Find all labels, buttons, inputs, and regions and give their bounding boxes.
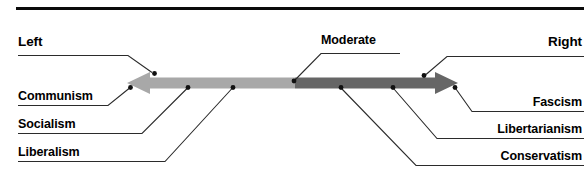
label-socialism: Socialism <box>18 118 75 131</box>
spectrum-bar-left-half <box>127 72 295 94</box>
label-fascism: Fascism <box>533 96 582 109</box>
label-moderate: Moderate <box>321 34 376 47</box>
political-spectrum-figure: Left Moderate Right Communism Socialism … <box>0 0 584 174</box>
label-left: Left <box>18 35 42 49</box>
label-conservatism: Conservatism <box>501 150 582 163</box>
label-liberalism: Liberalism <box>18 146 80 159</box>
label-communism: Communism <box>18 90 93 103</box>
label-right: Right <box>548 35 582 49</box>
spectrum-bar-right-half <box>295 72 458 94</box>
leader-right <box>422 57 584 78</box>
spectrum-graphics-layer <box>0 0 584 174</box>
leader-left <box>18 56 157 76</box>
label-libertarianism: Libertarianism <box>497 123 582 136</box>
